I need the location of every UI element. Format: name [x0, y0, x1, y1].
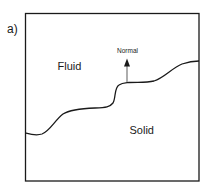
diagram-figure: a) Normal Fluid Solid	[0, 0, 213, 190]
fluid-region-label: Fluid	[58, 60, 82, 72]
interface-curve	[26, 61, 200, 135]
normal-arrow-icon	[124, 59, 130, 83]
normal-label: Normal	[117, 47, 139, 54]
domain-boundary-box	[26, 14, 200, 182]
panel-label: a)	[7, 22, 18, 36]
solid-region-label: Solid	[130, 124, 154, 136]
